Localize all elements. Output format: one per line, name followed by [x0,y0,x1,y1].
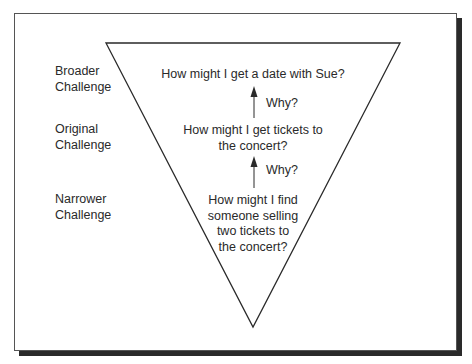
why-label: Why? [266,163,298,178]
inverted-triangle [106,43,400,327]
question-original: How might I get tickets to the concert? [183,123,323,154]
question-line: two tickets to [208,224,298,240]
arrow-up-icon [251,156,258,188]
question-line: How might I get a date with Sue? [161,67,344,83]
question-line: someone selling [208,209,298,225]
question-line: the concert? [183,139,323,155]
question-line: How might I get tickets to [183,123,323,139]
diagram-shapes [0,0,472,364]
label-narrower-challenge: Narrower Challenge [55,192,111,223]
label-line: Original [55,122,111,138]
label-original-challenge: Original Challenge [55,122,111,153]
label-line: Challenge [55,208,111,224]
label-line: Narrower [55,192,111,208]
question-line: the concert? [208,240,298,256]
label-line: Challenge [55,80,111,96]
why-label: Why? [266,96,298,111]
question-line: How might I find [208,193,298,209]
label-line: Broader [55,64,111,80]
arrow-up-icon [251,86,258,118]
question-broader: How might I get a date with Sue? [161,67,344,83]
question-narrower: How might I find someone selling two tic… [208,193,298,255]
label-line: Challenge [55,138,111,154]
label-broader-challenge: Broader Challenge [55,64,111,95]
